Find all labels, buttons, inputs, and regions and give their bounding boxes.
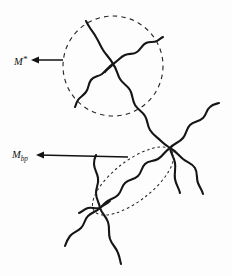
leader-line-mbp [39,155,128,157]
chain-arm-lower-southwest [65,208,100,246]
network-diagram: M* Mbp [0,0,232,276]
chain-arm-lower-south [100,208,121,264]
chain-arm-lower-north [94,155,100,208]
chain-arm-upper-northeast [113,37,163,64]
arrow-head-mstar [31,57,39,64]
label-mbp-subscript: bp [21,155,29,163]
arrow-head-mbp [36,152,44,159]
label-mbp: Mbp [11,149,28,163]
label-mstar: M* [13,54,28,68]
chain-arm-upper-northwest [86,21,113,64]
label-mstar-superscript: * [23,54,28,64]
figure-container: M* Mbp [0,0,232,276]
leader-arrow-mbp [36,152,128,159]
chain-arm-upper-southwest-stub [105,64,113,72]
chain-arm-middle-northeast [170,103,219,148]
leader-arrow-mstar [31,57,63,64]
polymer-chain-group [65,21,219,264]
